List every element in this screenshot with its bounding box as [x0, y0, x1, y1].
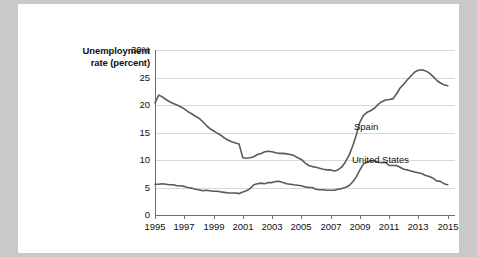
unemployment-rate-chart: Unemployment rate (percent) 051015202530…: [18, 4, 459, 253]
series-line-united-states: [155, 161, 448, 194]
chart-page: Unemployment rate (percent) 051015202530…: [18, 4, 459, 253]
series-label-united-states: United States: [352, 154, 409, 165]
series-lines: [18, 4, 459, 253]
series-label-spain: Spain: [354, 121, 378, 132]
